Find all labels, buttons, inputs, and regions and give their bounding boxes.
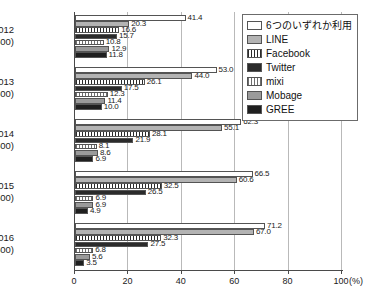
bar-2012-gree (75, 52, 107, 58)
bar-value-2015-line: 60.6 (239, 176, 254, 184)
legend-item-any[interactable]: 6つのいずれか利用 (247, 18, 353, 32)
legend-label-gree: GREE (266, 104, 294, 115)
x-tick-label-100: 100 (333, 276, 348, 286)
bar-2013-line (75, 73, 192, 79)
bar-value-2013-gree: 10.0 (104, 103, 119, 111)
bar-value-2015-any: 66.5 (255, 170, 270, 178)
legend-label-mixi: mixi (266, 76, 284, 87)
bar-2015-any (75, 171, 253, 177)
bar-value-2016-gree: 3.5 (86, 259, 97, 267)
category-sample-size-2016: (N=1,500) (0, 244, 14, 256)
bar-value-2013-facebook: 26.1 (147, 78, 162, 86)
category-label-2013: 2013(N=1,500) (0, 76, 14, 100)
bar-2013-gree (75, 104, 102, 110)
category-label-2012: 2012(N=1,500) (0, 24, 14, 48)
bar-value-2015-twitter: 26.5 (148, 188, 163, 196)
x-tick-mark-20 (127, 270, 128, 274)
legend-swatch-mobage (247, 91, 262, 100)
legend-label-line: LINE (266, 34, 288, 45)
x-tick-label-40: 40 (176, 276, 186, 286)
category-sample-size-2015: (N=1,500) (0, 192, 14, 204)
x-tick-label-20: 20 (122, 276, 132, 286)
bar-2016-gree (75, 260, 84, 266)
bar-2014-mixi (75, 144, 97, 150)
category-year-2014: 2014 (0, 128, 14, 140)
bar-value-2016-twitter: 27.5 (150, 240, 165, 248)
bar-2014-any (75, 119, 241, 125)
bar-2013-mobage (75, 98, 105, 104)
bar-value-2015-gree: 4.9 (90, 207, 101, 215)
bar-value-2013-twitter: 17.5 (124, 84, 139, 92)
x-tick-label-0: 0 (71, 276, 76, 286)
x-tick-mark-0 (74, 270, 75, 274)
bar-2012-mixi (75, 40, 104, 46)
bar-value-2012-gree: 11.8 (109, 51, 123, 59)
bar-value-2014-twitter: 21.9 (135, 136, 150, 144)
legend-swatch-twitter (247, 63, 262, 72)
bar-value-2016-facebook: 32.3 (163, 234, 178, 242)
bar-value-2012-any: 41.4 (188, 14, 203, 22)
category-year-2016: 2016 (0, 232, 14, 244)
category-label-2015: 2015(N=1,500) (0, 180, 14, 204)
x-tick-label-60: 60 (229, 276, 239, 286)
bar-value-2012-twitter: 15.7 (119, 32, 134, 40)
bar-2016-twitter (75, 242, 148, 248)
bar-value-2013-any: 53.0 (219, 66, 234, 74)
x-axis-line (74, 270, 343, 271)
bar-value-2014-facebook: 28.1 (152, 130, 167, 138)
bar-value-2015-facebook: 32.5 (164, 182, 179, 190)
bar-2015-gree (75, 208, 88, 214)
legend-label-facebook: Facebook (266, 48, 310, 59)
bar-2013-mixi (75, 92, 108, 98)
legend-swatch-gree (247, 105, 262, 114)
bar-2015-line (75, 177, 237, 183)
legend-item-mobage[interactable]: Mobage (247, 88, 353, 102)
bar-value-2014-gree: 6.9 (95, 155, 106, 163)
x-tick-mark-40 (181, 270, 182, 274)
x-tick-mark-60 (234, 270, 235, 274)
legend-label-any: 6つのいずれか利用 (266, 20, 352, 31)
legend-label-mobage: Mobage (266, 90, 302, 101)
bar-2014-gree (75, 156, 93, 162)
legend-swatch-any (247, 21, 262, 30)
legend-item-facebook[interactable]: Facebook (247, 46, 353, 60)
bar-2012-mobage (75, 46, 109, 52)
legend-swatch-facebook (247, 49, 262, 58)
legend-item-gree[interactable]: GREE (247, 102, 353, 116)
legend-item-twitter[interactable]: Twitter (247, 60, 353, 74)
category-sample-size-2014: (N=1,500) (0, 140, 14, 152)
legend-item-line[interactable]: LINE (247, 32, 353, 46)
legend-swatch-line (247, 35, 262, 44)
bar-value-2016-line: 67.0 (256, 228, 271, 236)
legend: 6つのいずれか利用LINEFacebookTwittermixiMobageGR… (242, 14, 358, 121)
category-sample-size-2012: (N=1,500) (0, 36, 14, 48)
legend-item-mixi[interactable]: mixi (247, 74, 353, 88)
bar-2016-facebook (75, 235, 161, 241)
category-year-2015: 2015 (0, 180, 14, 192)
category-label-2014: 2014(N=1,500) (0, 128, 14, 152)
bar-2016-mixi (75, 248, 93, 254)
category-year-2012: 2012 (0, 24, 14, 36)
bar-value-2013-line: 44.0 (194, 72, 209, 80)
bar-2015-mixi (75, 196, 93, 202)
legend-label-twitter: Twitter (266, 62, 295, 73)
bar-2014-line (75, 125, 222, 131)
bar-2015-twitter (75, 190, 146, 196)
category-label-2016: 2016(N=1,500) (0, 232, 14, 256)
bar-chart: 41.420.316.615.710.812.911.853.044.026.1… (0, 0, 365, 296)
legend-swatch-mixi (247, 77, 262, 86)
bar-value-2014-line: 55.1 (224, 124, 239, 132)
category-year-2013: 2013 (0, 76, 14, 88)
bar-2016-any (75, 223, 265, 229)
x-tick-mark-100 (341, 270, 342, 274)
bar-2012-facebook (75, 27, 119, 33)
x-axis-unit-label: (%) (349, 276, 363, 286)
x-tick-label-80: 80 (283, 276, 293, 286)
category-sample-size-2013: (N=1,500) (0, 88, 14, 100)
x-tick-mark-80 (288, 270, 289, 274)
